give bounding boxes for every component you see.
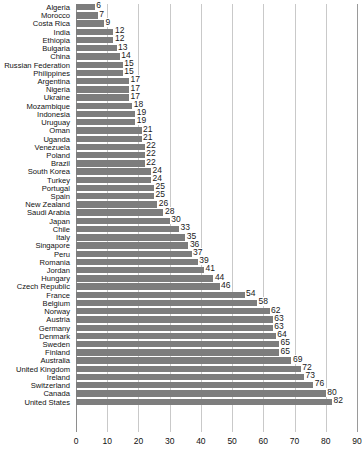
bar-row: 17 [76,78,357,86]
bar [76,267,204,273]
bar [76,218,170,224]
bar-row: 82 [76,399,357,407]
value-axis-labels: 0102030405060708090 [76,436,357,452]
bar-row: 25 [76,185,357,193]
category-axis-labels: AlgeriaMoroccoCosta RicaIndiaEthiopiaBul… [0,4,73,432]
x-tick-label: 40 [196,436,205,446]
bar [76,177,151,183]
bar [76,374,304,380]
bar-row: 6 [76,4,357,12]
bar [76,37,113,43]
bar-row: 7 [76,12,357,20]
bar-value-label: 54 [245,289,256,298]
bar [76,226,179,232]
bar-row: 44 [76,275,357,283]
bar-row: 37 [76,251,357,259]
bar [76,382,313,388]
bar-row: 69 [76,357,357,365]
bar [76,86,129,92]
bar [76,103,132,109]
bar-row: 30 [76,218,357,226]
bar [76,325,273,331]
bar [76,45,117,51]
bar [76,251,192,257]
x-tick-label: 30 [165,436,174,446]
bar [76,234,185,240]
bar-row: 19 [76,111,357,119]
bar-row: 35 [76,234,357,242]
bar-row: 28 [76,209,357,217]
bar-row: 76 [76,382,357,390]
bar [76,275,213,281]
bar-row: 25 [76,193,357,201]
bar [76,316,273,322]
plot-area: 6791212131415151717171819192121222222242… [76,4,357,432]
bar [76,160,145,166]
bar [76,242,188,248]
bar [76,259,198,265]
bar [76,390,326,396]
bar [76,399,332,405]
bar-row: 33 [76,226,357,234]
bar [76,185,154,191]
bar [76,29,113,35]
x-tick-label: 20 [134,436,143,446]
bar [76,20,104,26]
category-label: United States [0,399,73,407]
bar-row: 46 [76,283,357,291]
x-tick-label: 80 [321,436,330,446]
bar [76,144,145,150]
bar-row: 15 [76,70,357,78]
bar [76,333,276,339]
bar-row: 22 [76,144,357,152]
bar-row: 62 [76,308,357,316]
bar [76,127,142,133]
bar-row: 17 [76,86,357,94]
x-tick-label: 90 [352,436,361,446]
bar-row: 18 [76,103,357,111]
bar-row: 14 [76,53,357,61]
bar-row: 63 [76,325,357,333]
x-tick-label: 70 [290,436,299,446]
bar-row: 22 [76,160,357,168]
bar-row: 17 [76,94,357,102]
bar [76,62,123,68]
bar-row: 63 [76,316,357,324]
x-tick-label: 50 [227,436,236,446]
bar [76,94,129,100]
bar-value-label: 46 [220,281,231,290]
bar [76,292,245,298]
bar [76,283,220,289]
bar-value-label: 9 [104,18,110,27]
bar-row: 24 [76,177,357,185]
bar-row: 65 [76,349,357,357]
x-tick-label: 0 [74,436,79,446]
bar [76,168,151,174]
bar [76,366,301,372]
bar [76,4,95,10]
bar-value-label: 82 [332,396,343,405]
bar-row: 26 [76,201,357,209]
bar-rows: 6791212131415151717171819192121222222242… [76,4,357,432]
bar [76,12,98,18]
bar [76,308,270,314]
bar-row: 54 [76,292,357,300]
bar [76,111,135,117]
bar [76,201,157,207]
bar-row: 13 [76,45,357,53]
bar-chart: AlgeriaMoroccoCosta RicaIndiaEthiopiaBul… [0,0,362,469]
bar-row: 80 [76,390,357,398]
bar [76,70,123,76]
bar [76,349,279,355]
gridline-90 [357,4,358,432]
bar [76,193,154,199]
bar [76,300,257,306]
bar-row: 22 [76,152,357,160]
bar-row: 36 [76,242,357,250]
bar-row: 39 [76,259,357,267]
bar [76,136,142,142]
bar-row: 15 [76,62,357,70]
x-tick-label: 10 [102,436,111,446]
bar [76,209,163,215]
bar [76,341,279,347]
